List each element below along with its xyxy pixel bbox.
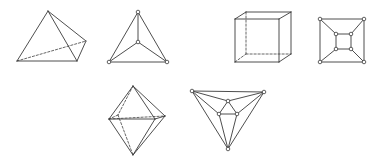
hidden-edge xyxy=(118,86,133,115)
edge xyxy=(109,42,138,62)
cube-solid xyxy=(235,12,291,62)
vertex-node-icon xyxy=(136,10,140,14)
edge xyxy=(138,12,167,62)
edge xyxy=(133,86,165,116)
edge xyxy=(279,54,291,62)
edge xyxy=(228,114,237,149)
edge xyxy=(133,116,165,155)
vertex-node-icon xyxy=(217,112,221,116)
octahedron-solid xyxy=(109,86,165,155)
edge xyxy=(17,11,48,61)
hidden-edge xyxy=(235,54,246,62)
edge xyxy=(109,12,138,62)
vertex-node-icon xyxy=(349,32,353,36)
vertex-node-icon xyxy=(136,40,140,44)
edge xyxy=(48,11,77,61)
vertex-node-icon xyxy=(349,47,353,51)
edge xyxy=(138,42,167,62)
edge xyxy=(77,41,86,61)
hidden-edge xyxy=(118,115,133,155)
edge xyxy=(351,49,364,62)
edge xyxy=(133,119,155,155)
tetrahedron-graph xyxy=(107,10,169,64)
edge xyxy=(192,91,264,92)
vertex-node-icon xyxy=(226,99,230,103)
edge xyxy=(219,101,228,114)
vertex-node-icon xyxy=(165,60,169,64)
edge xyxy=(219,114,228,149)
edge xyxy=(109,119,133,155)
edge xyxy=(228,92,264,149)
tetrahedron-solid xyxy=(17,11,86,61)
polyhedra-diagram xyxy=(0,0,381,166)
edge xyxy=(320,19,336,34)
edge xyxy=(279,12,291,19)
vertex-node-icon xyxy=(318,17,322,21)
vertex-node-icon xyxy=(334,32,338,36)
vertex-node-icon xyxy=(190,89,194,93)
edge xyxy=(320,49,336,62)
vertex-node-icon xyxy=(334,47,338,51)
cube-graph xyxy=(318,17,366,64)
vertex-node-icon xyxy=(318,60,322,64)
vertex-node-icon xyxy=(107,60,111,64)
edge xyxy=(235,12,246,19)
octahedron-graph xyxy=(190,89,266,151)
edge xyxy=(48,11,86,41)
vertex-node-icon xyxy=(226,147,230,151)
edge xyxy=(109,86,133,119)
edge xyxy=(228,101,237,114)
vertex-node-icon xyxy=(235,112,239,116)
vertex-node-icon xyxy=(362,17,366,21)
vertex-node-icon xyxy=(262,90,266,94)
edge xyxy=(351,19,364,34)
edge xyxy=(133,86,155,119)
vertex-node-icon xyxy=(362,60,366,64)
